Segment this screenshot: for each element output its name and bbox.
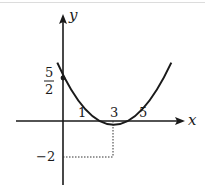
tick-label-1: 1 bbox=[78, 105, 86, 120]
y-intercept-point bbox=[61, 76, 66, 81]
tick-label-5: 5 bbox=[139, 105, 147, 120]
y-label-denominator: 2 bbox=[45, 82, 53, 97]
x-axis-label: x bbox=[188, 111, 197, 129]
y-label-neg2: −2 bbox=[36, 149, 55, 164]
y-axis-label: y bbox=[68, 6, 78, 24]
tick-label-3: 3 bbox=[110, 105, 118, 120]
parabola-graph: y x 1 3 5 5 2 −2 bbox=[0, 0, 205, 195]
y-label-numerator: 5 bbox=[45, 65, 53, 80]
